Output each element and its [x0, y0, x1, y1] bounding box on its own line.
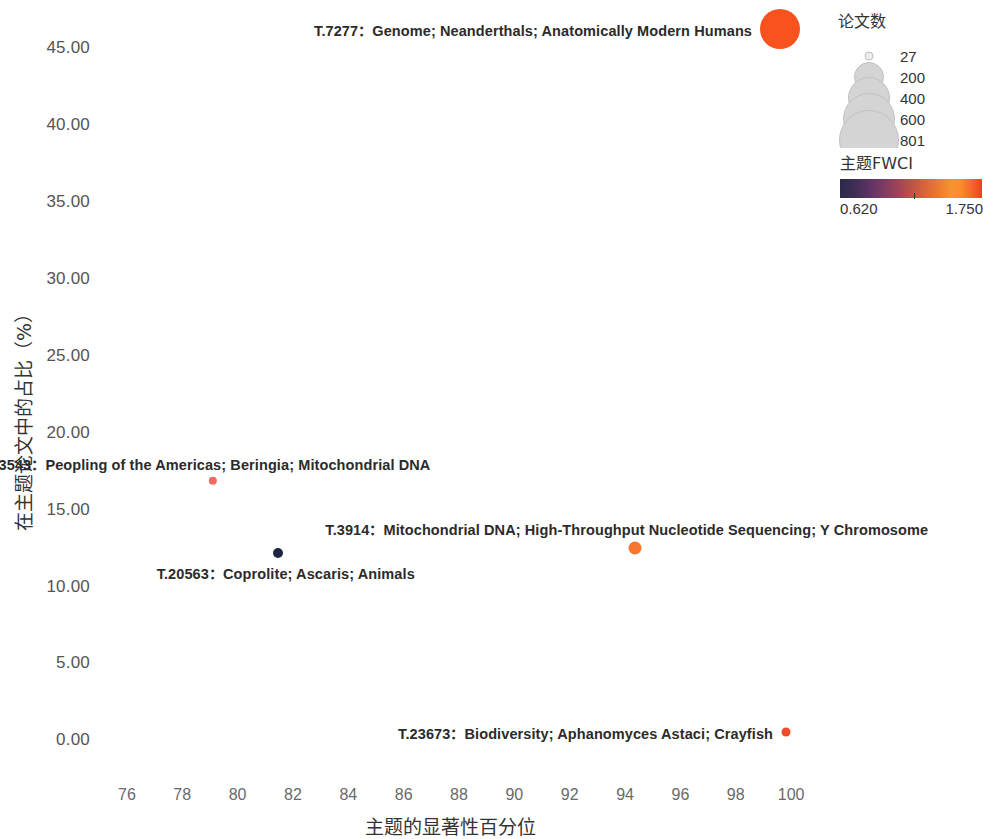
size-legend: 论文数 27200400600801: [838, 8, 983, 148]
y-axis-tick-label: 35.00: [46, 192, 90, 212]
y-axis-tick-label: 20.00: [46, 423, 90, 443]
y-axis-tick-label: 15.00: [46, 500, 90, 520]
size-legend-label: 200: [900, 69, 925, 86]
colorbar-gradient: [840, 179, 982, 198]
y-axis-tick-label: 45.00: [46, 38, 90, 58]
y-axis-tick-label: 5.00: [56, 653, 90, 673]
data-point-label: T.13543：Peopling of the Americas; Bering…: [0, 452, 430, 473]
x-axis-tick-label: 76: [118, 786, 136, 804]
colorbar-max-label: 1.750: [945, 200, 983, 217]
x-axis-tick-label: 84: [339, 786, 357, 804]
size-legend-swatches: [838, 36, 900, 148]
x-axis-tick-label: 92: [561, 786, 579, 804]
y-axis-tick-label: 30.00: [46, 269, 90, 289]
x-axis-ticks: 767880828486889092949698100: [0, 786, 983, 810]
x-axis-tick-label: 86: [395, 786, 413, 804]
data-point-label: T.23673：Biodiversity; Aphanomyces Astaci…: [398, 721, 773, 742]
color-legend-title: 主题FWCI: [840, 150, 983, 174]
x-axis-tick-label: 96: [671, 786, 689, 804]
y-axis-tick-label: 10.00: [46, 577, 90, 597]
x-axis-tick-label: 80: [229, 786, 247, 804]
y-axis-title: 在主题论文中的占比（%）: [9, 208, 36, 628]
data-point[interactable]: [273, 548, 283, 558]
x-axis-tick-label: 88: [450, 786, 468, 804]
colorbar-tick: [914, 193, 916, 199]
size-legend-title: 论文数: [838, 8, 983, 32]
y-axis-tick-label: 0.00: [56, 730, 90, 750]
colorbar-labels: 0.620 1.750: [840, 200, 983, 220]
x-axis-tick-label: 100: [778, 786, 805, 804]
data-point-label: T.7277：Genome; Neanderthals; Anatomicall…: [314, 19, 752, 40]
x-axis-tick-label: 78: [173, 786, 191, 804]
scatter-chart: 0.005.0010.0015.0020.0025.0030.0035.0040…: [0, 0, 983, 839]
x-axis-tick-label: 98: [727, 786, 745, 804]
size-legend-label: 801: [900, 132, 925, 149]
size-legend-label: 400: [900, 90, 925, 107]
colorbar-min-label: 0.620: [840, 200, 878, 217]
size-legend-swatch: [865, 52, 874, 61]
data-point[interactable]: [628, 542, 641, 555]
data-point[interactable]: [208, 477, 216, 485]
y-axis-tick-label: 40.00: [46, 115, 90, 135]
x-axis-title: 主题的显著性百分位: [0, 812, 900, 839]
data-point[interactable]: [781, 727, 790, 736]
size-legend-body: 27200400600801: [838, 36, 983, 148]
size-legend-label: 27: [900, 48, 917, 65]
data-point-label: T.3914：Mitochondrial DNA; High-Throughpu…: [325, 517, 928, 538]
data-point[interactable]: [760, 9, 800, 49]
data-point-label: T.20563：Coprolite; Ascaris; Animals: [157, 562, 415, 583]
plot-area: T.7277：Genome; Neanderthals; Anatomicall…: [102, 20, 816, 762]
size-legend-label: 600: [900, 111, 925, 128]
x-axis-tick-label: 94: [616, 786, 634, 804]
x-axis-tick-label: 90: [505, 786, 523, 804]
y-axis-tick-label: 25.00: [46, 346, 90, 366]
x-axis-tick-label: 82: [284, 786, 302, 804]
color-legend: 主题FWCI 0.620 1.750: [840, 150, 983, 220]
